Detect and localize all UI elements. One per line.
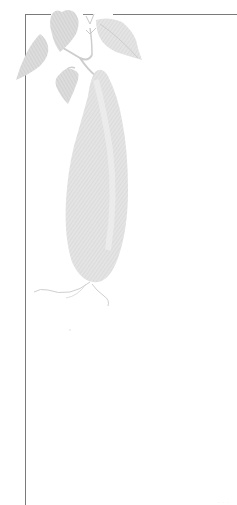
footer-text: · · · [218, 500, 229, 505]
sweet-potato-illustration-icon [0, 0, 237, 505]
